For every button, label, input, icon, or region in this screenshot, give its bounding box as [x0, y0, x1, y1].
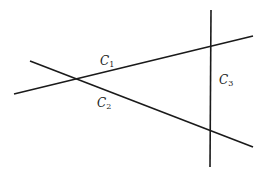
- line-c3: [210, 10, 211, 167]
- label-c2-subscript: 2: [106, 102, 111, 111]
- label-c3-letter: C: [219, 73, 228, 87]
- label-c1-letter: C: [100, 54, 109, 68]
- label-c2-letter: C: [97, 96, 106, 110]
- label-c1: C1: [100, 55, 114, 69]
- label-c1-subscript: 1: [109, 60, 114, 69]
- label-c3: C3: [219, 74, 233, 88]
- line-diagram: [0, 0, 267, 178]
- label-c2: C2: [97, 97, 111, 111]
- line-c1: [14, 36, 253, 94]
- label-c3-subscript: 3: [228, 79, 233, 88]
